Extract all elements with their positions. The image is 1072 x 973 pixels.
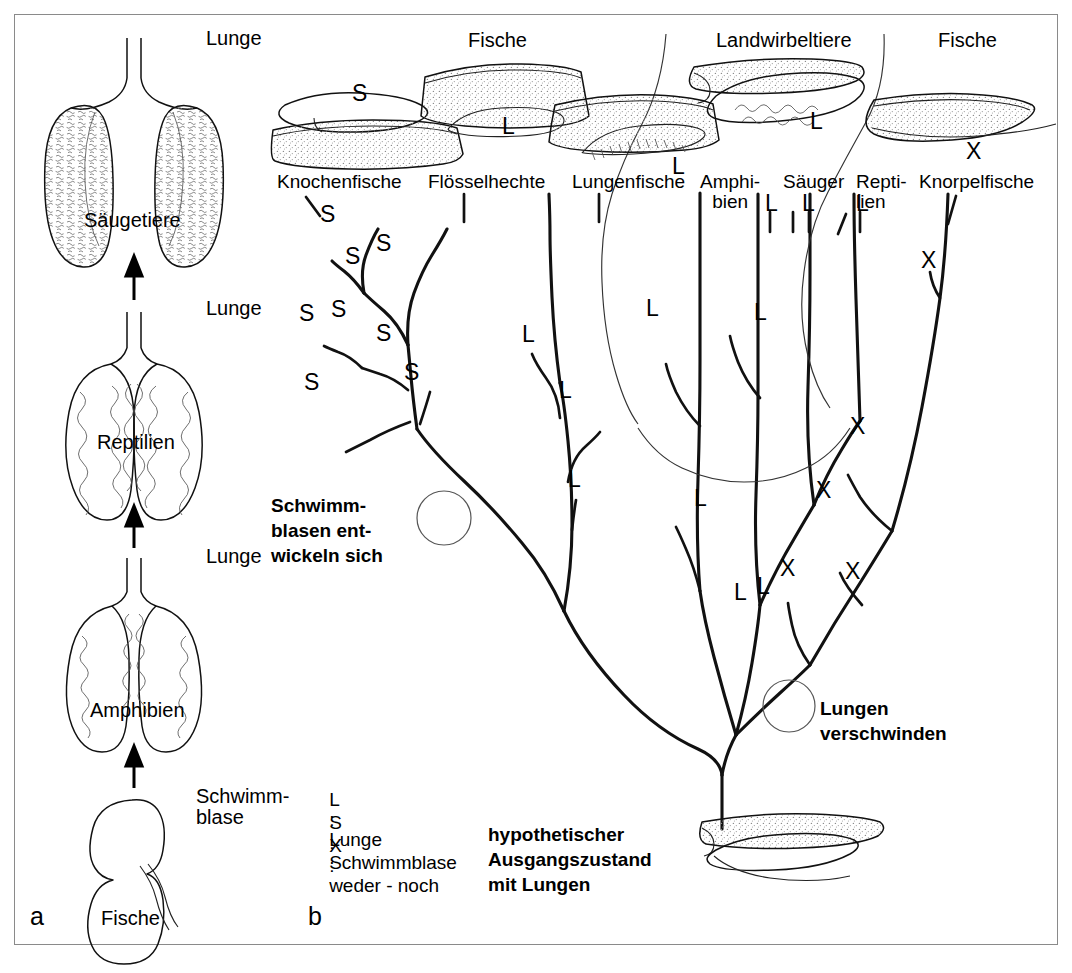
panel-a-arrow-1 [126,256,142,300]
panel-a-organ-label-2: Lunge [206,546,262,567]
branch-marker-0: S [320,203,335,226]
legend-key-x: X [329,835,342,856]
panel-a-swim-bladder [88,800,178,964]
panel-id-b: b [308,902,322,931]
branch-marker-8: L [522,323,535,346]
organ-marker-l-landwirbeltiere: L [810,110,823,133]
branch-marker-23: X [845,560,860,583]
taxon-amphibien: Amphi- bien [700,172,760,212]
annotation-lung-loss: Lungen verschwinden [820,696,947,746]
panel-a-arrow-2 [126,506,142,548]
taxon-floesselhechte: Flösselhechte [428,172,545,192]
organ-marker-s-knochenfische: S [352,82,367,105]
event-circle-swimbladder [417,491,471,545]
organ-marker-x-knorpelfische: X [966,140,981,163]
panel-a-taxon-saeugetiere: Säugetiere [84,210,181,231]
branch-marker-21: X [816,479,831,502]
annotation-swimbladder-origin: Schwimm- blasen ent- wickeln sich [271,493,383,568]
branch-marker-4: S [331,298,346,321]
panel-a-arrow-3 [126,746,142,788]
branch-marker-14: L [802,192,815,215]
branch-marker-11: L [646,297,659,320]
group-label-fische-left: Fische [468,30,527,51]
group-label-landwirbeltiere: Landwirbeltiere [716,30,852,51]
branch-marker-1: S [376,232,391,255]
organ-knorpelfische [866,94,1056,142]
panel-a-organ-label-3: Schwimm- blase [196,786,289,828]
panel-a-taxon-fische: Fische [101,908,160,929]
organ-landwirbeltiere [689,59,864,126]
branch-marker-15: L [856,192,869,215]
panel-a-amphibian-lung [66,558,201,752]
figure-root: Lunge Säugetiere Lunge Reptilien Lunge A… [0,0,1072,973]
organ-lungenfische [549,95,719,160]
taxon-knorpelfische: Knorpelfische [919,172,1034,192]
organ-hypothetical-ancestor [700,814,884,881]
branch-marker-5: S [376,322,391,345]
panel-a-mammal-lung [45,38,224,267]
branch-marker-12: L [754,301,767,324]
event-circle-lungloss [763,680,815,732]
branch-marker-3: S [299,302,314,325]
legend-sep-x: : [329,855,334,876]
taxon-knochenfische: Knochenfische [277,172,402,192]
legend-row-x: X : weder - noch [308,816,439,917]
branch-marker-17: L [734,581,747,604]
branch-marker-9: L [559,379,572,402]
branch-marker-18: L [757,575,770,598]
branch-marker-10: L [568,468,581,491]
organ-marker-l-floesselhechte: L [502,115,515,138]
branch-marker-19: X [921,249,936,272]
branch-marker-13: L [765,192,778,215]
branch-marker-6: S [304,371,319,394]
annotation-hypothetical-ancestor: hypothetischer Ausgangszustand mit Lunge… [488,822,652,897]
panel-id-a: a [30,902,44,931]
panel-a-taxon-amphibien: Amphibien [90,700,185,721]
branch-marker-16: L [694,487,707,510]
branch-marker-7: S [404,361,419,384]
branch-marker-20: X [850,415,865,438]
panel-a-organ-label-0: Lunge [206,28,262,49]
legend-value-x: weder - noch [329,875,439,896]
taxon-lungenfische: Lungenfische [572,172,685,192]
branch-marker-2: S [345,245,360,268]
panel-a-reptile-lung [66,312,202,520]
panel-a-taxon-reptilien: Reptilien [97,432,175,453]
branch-marker-22: X [780,557,795,580]
panel-a-organ-label-1: Lunge [206,298,262,319]
group-label-fische-right: Fische [938,30,997,51]
